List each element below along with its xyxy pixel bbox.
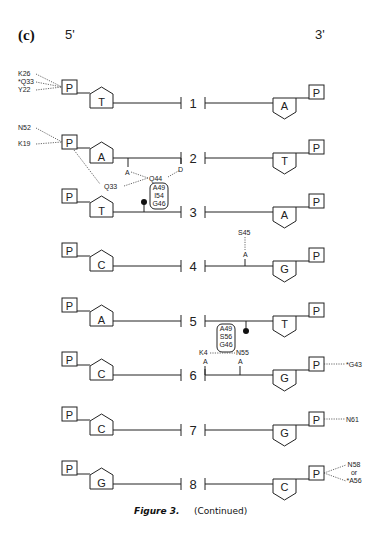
phosphate-label: P [313, 414, 320, 426]
vdw-residue: A49 [153, 184, 166, 191]
residue-s45-label: S45 [238, 229, 251, 236]
right-phosphate: P [309, 412, 324, 426]
left-phosphate: P [62, 461, 77, 475]
dna-contact-diagram: (c) 5' 3' PT1APK26*Q33Y22PA2TPN52K19PT3A… [0, 0, 381, 537]
contact-residue-label: *G43 [346, 361, 362, 368]
contact-residue-label: N58 [348, 461, 361, 468]
vdw-residue: I54 [154, 192, 164, 199]
phosphate-label: P [313, 87, 320, 99]
phosphate-label: P [313, 250, 320, 262]
contact-line [36, 87, 62, 90]
base-letter: A [281, 209, 289, 221]
contact-line [74, 150, 100, 184]
phosphate-label: P [66, 191, 73, 203]
figure-caption-label: Figure 3. [134, 506, 179, 516]
methyl-group-icon [243, 328, 249, 334]
pair-number: 1 [189, 96, 196, 111]
contact-residue-label: K19 [18, 140, 31, 147]
vdw-residue: G46 [219, 341, 232, 348]
phosphate-label: P [313, 305, 320, 317]
contact-residue-label: *A56 [346, 477, 361, 484]
three-prime-label: 3' [315, 27, 325, 42]
left-base: C [90, 414, 113, 435]
base-pair-row: PT1APK26*Q33Y22 [18, 70, 324, 119]
pair-number: 5 [189, 314, 196, 329]
base-pair-row: PA5TP [62, 298, 324, 337]
left-phosphate: P [62, 189, 77, 203]
pair-number: 4 [189, 259, 196, 274]
vdw-residue: A49 [220, 325, 233, 332]
contact-residue-label: or [351, 469, 358, 476]
base-pair-row: PA2TPN52K19 [18, 124, 324, 174]
left-phosphate: P [62, 407, 77, 421]
contact-line [36, 142, 62, 144]
base-letter: C [281, 481, 289, 493]
base-pair-row: PC7GPN61 [62, 407, 359, 446]
groove-annotation-pair5-6: A49 S56 G46 K4 N55 A A [199, 321, 249, 375]
contact-residue-label: N52 [18, 124, 31, 131]
contact-line [36, 128, 62, 142]
contact-residue-label: K26 [18, 70, 31, 77]
phosphate-label: P [313, 196, 320, 208]
right-phosphate: P [309, 248, 324, 262]
left-base: A [90, 305, 113, 326]
acceptor-a-label: A [203, 358, 208, 365]
right-base: A [273, 98, 296, 119]
phosphate-label: P [313, 468, 320, 480]
donor-d-label: D [178, 166, 183, 173]
left-base: A [90, 142, 113, 163]
residue-k4-label: K4 [199, 349, 208, 356]
five-prime-label: 5' [65, 27, 75, 42]
phosphate-label: P [313, 359, 320, 371]
left-base: C [90, 359, 113, 380]
contact-residue-label: *Q33 [18, 78, 34, 86]
right-phosphate: P [309, 194, 324, 208]
right-phosphate: P [309, 85, 324, 99]
right-phosphate: P [309, 303, 324, 317]
residue-q33-label: Q33 [104, 183, 117, 191]
pair-number: 8 [189, 477, 196, 492]
left-phosphate: P [62, 243, 77, 257]
phosphate-label: P [66, 245, 73, 257]
phosphate-label: P [66, 409, 73, 421]
right-phosphate: P [309, 140, 324, 154]
base-pair-row: PC6GP*G43 [62, 352, 362, 391]
right-base: A [273, 207, 296, 228]
contact-residue-label: N61 [346, 416, 359, 423]
figure-caption-note: (Continued) [194, 506, 247, 516]
acceptor-a-label: A [243, 251, 248, 258]
base-letter: T [281, 318, 288, 330]
left-phosphate: P [62, 352, 77, 366]
base-letter: C [98, 259, 106, 271]
pair-number: 2 [189, 151, 196, 166]
base-letter: G [280, 372, 289, 384]
base-letter: A [98, 151, 106, 163]
base-letter: G [280, 263, 289, 275]
right-phosphate: P [309, 466, 324, 480]
left-base: T [90, 87, 113, 108]
residue-n55-label: N55 [236, 349, 249, 356]
base-pair-row: PT3AP [62, 189, 324, 228]
left-phosphate: P [62, 298, 77, 312]
base-letter: G [97, 477, 106, 489]
vdw-residue: S56 [220, 333, 233, 340]
contact-residue-label: Y22 [18, 86, 31, 93]
base-pair-rows: PT1APK26*Q33Y22PA2TPN52K19PT3APPC4GPPA5T… [18, 70, 362, 500]
contact-line [36, 82, 62, 87]
right-base: G [273, 261, 296, 282]
phosphate-label: P [66, 300, 73, 312]
base-letter: C [98, 368, 106, 380]
contact-line [131, 172, 148, 178]
base-letter: T [98, 205, 105, 217]
residue-q44-label: Q44 [149, 175, 162, 183]
left-base: G [90, 468, 113, 489]
right-base: C [273, 479, 296, 500]
contact-line [324, 465, 346, 473]
methyl-group-icon [141, 199, 147, 205]
acceptor-a-label: A [125, 169, 130, 176]
left-base: T [90, 196, 113, 217]
base-letter: A [98, 314, 106, 326]
acceptor-a-label: A [238, 358, 243, 365]
contact-line [124, 178, 148, 186]
base-letter: G [280, 427, 289, 439]
